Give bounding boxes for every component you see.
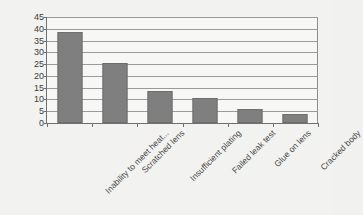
y-axis-tick-labels: 454035302520151050 bbox=[0, 17, 44, 123]
bar-slot bbox=[137, 17, 182, 123]
bar[interactable] bbox=[57, 32, 82, 123]
bar-slot bbox=[183, 17, 228, 123]
bar[interactable] bbox=[102, 63, 127, 123]
y-axis-tick-label: 20 bbox=[22, 72, 44, 81]
x-axis-category-label: Glue on lens bbox=[272, 128, 313, 169]
x-axis-tick-mark bbox=[183, 123, 184, 127]
x-axis-tick-mark bbox=[318, 123, 319, 127]
y-axis-tick-label: 25 bbox=[22, 60, 44, 69]
x-axis-tick-mark bbox=[273, 123, 274, 127]
bar-slot bbox=[273, 17, 318, 123]
x-axis-category-labels: Inability to meet heat...Scratched lensI… bbox=[47, 128, 318, 213]
x-axis-tick-mark bbox=[47, 123, 48, 127]
bar[interactable] bbox=[193, 98, 218, 123]
y-axis-tick-label: 40 bbox=[22, 25, 44, 34]
x-axis-tick-mark bbox=[137, 123, 138, 127]
x-axis-tick-mark bbox=[228, 123, 229, 127]
bar-slot bbox=[228, 17, 273, 123]
y-axis-tick-label: 35 bbox=[22, 37, 44, 46]
y-axis-tick-label: 0 bbox=[22, 119, 44, 128]
y-axis-tick-label: 30 bbox=[22, 48, 44, 57]
bar-slot bbox=[47, 17, 92, 123]
y-axis-tick-label: 45 bbox=[22, 13, 44, 22]
bar-slot bbox=[92, 17, 137, 123]
y-axis-tick-label: 10 bbox=[22, 95, 44, 104]
x-axis-category-label: Inability to meet heat... bbox=[103, 128, 171, 196]
bar-series bbox=[47, 17, 318, 123]
bar[interactable] bbox=[283, 114, 308, 123]
x-axis-category-label: Cracked body bbox=[319, 128, 363, 172]
y-axis-tick-label: 15 bbox=[22, 84, 44, 93]
bar[interactable] bbox=[147, 91, 172, 123]
bar[interactable] bbox=[238, 109, 263, 123]
x-axis-tick-mark bbox=[92, 123, 93, 127]
x-axis-category-label: Insufficient plating bbox=[188, 128, 243, 183]
y-axis-tick-label: 5 bbox=[22, 107, 44, 116]
